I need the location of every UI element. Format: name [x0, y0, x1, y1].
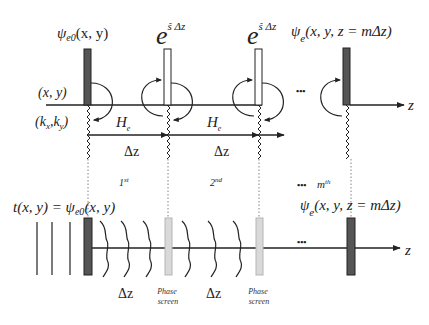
- step-1-label: 1st: [119, 176, 130, 188]
- psi-e0-label: ψe0(x, y): [57, 25, 108, 43]
- dz-label-top-1: Δz: [124, 144, 139, 159]
- wavefront-curve-1: [100, 221, 109, 277]
- k-space-label: (kx,ky): [35, 114, 69, 131]
- phase-screen-2: [256, 218, 263, 275]
- dz-label-bottom-2: Δz: [206, 286, 221, 301]
- phase-screen-1: [165, 218, 172, 275]
- he-label-2: He: [206, 114, 222, 133]
- propagator-bar-2: [255, 49, 262, 105]
- exit-slice-bar: [347, 218, 355, 275]
- wavefront-curve-6: [233, 221, 242, 277]
- zigzag-line-1: [87, 105, 90, 159]
- final-slice-bar: [343, 48, 350, 105]
- propagator-bar-1: [164, 49, 171, 105]
- wavefront-curve-2: [121, 221, 130, 277]
- ellipsis-top: •••: [296, 86, 305, 96]
- step-m-ellipsis: •••: [297, 180, 306, 190]
- inverse-arrow-2: [233, 80, 254, 116]
- fourier-arrow-1: [91, 83, 112, 120]
- step-m-label: mth: [317, 178, 331, 190]
- psi-e-m-label-bottom: ψe(x, y, z = mΔz): [300, 197, 401, 218]
- he-label-1: He: [115, 114, 131, 133]
- inverse-arrow-4: [321, 80, 342, 116]
- zigzag-line-2: [167, 105, 170, 159]
- phase-screen-label-2: Phase screen: [247, 287, 270, 306]
- multislice-diagram: ψe0(x, y) eŝ Δz eŝ Δz ψe(x, y, z = mΔz) …: [0, 0, 429, 325]
- z-axis-label-bottom: z: [404, 242, 411, 258]
- wavefront-curve-5: [208, 221, 217, 277]
- zigzag-line-3: [258, 105, 261, 159]
- zigzag-line-4: [346, 105, 349, 159]
- initial-slice-bar: [84, 49, 91, 105]
- fourier-arrow-2: [171, 83, 192, 120]
- psi-e-m-label-top: ψe(x, y, z = mΔz): [291, 23, 392, 44]
- real-space-label: (x, y): [38, 85, 67, 101]
- z-axis-label-top: z: [407, 97, 414, 113]
- wavefront-curve-3: [143, 221, 152, 277]
- wavefront-curve-4: [182, 221, 191, 277]
- ellipsis-bottom: •••: [297, 237, 306, 247]
- transmission-function-label: t(x, y) = ψe0(x, y): [13, 199, 115, 217]
- phase-screen-label-1: Phase screen: [156, 287, 179, 306]
- step-2-label: 2nd: [210, 176, 223, 188]
- specimen-entrance-bar: [84, 218, 92, 275]
- propagator-label-2: eŝ Δz: [247, 20, 277, 50]
- inverse-arrow-1: [142, 80, 163, 116]
- top-panel: ψe0(x, y) eŝ Δz eŝ Δz ψe(x, y, z = mΔz) …: [35, 20, 414, 218]
- dz-label-bottom-1: Δz: [118, 286, 133, 301]
- propagator-label-1: eŝ Δz: [156, 20, 186, 50]
- fourier-arrow-3: [262, 83, 283, 120]
- dz-label-top-2: Δz: [214, 144, 229, 159]
